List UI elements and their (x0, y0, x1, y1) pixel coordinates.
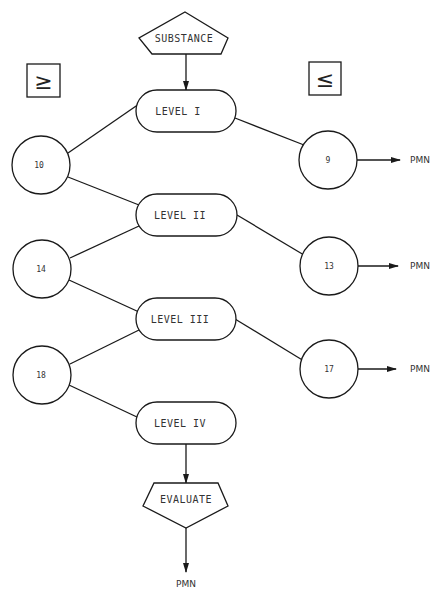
edge-level1-node9 (235, 118, 304, 145)
level-4-label: LEVEL IV (154, 418, 206, 429)
level-1: LEVEL I (136, 90, 236, 132)
level-1-label: LEVEL I (155, 106, 201, 117)
end-node-evaluate: EVALUATE (143, 483, 228, 528)
level-2: LEVEL II (136, 194, 237, 236)
node-18-label: 18 (36, 371, 46, 380)
level-3: LEVEL III (136, 298, 236, 340)
node-17-label: 17 (324, 365, 334, 374)
node-9-label: 9 (326, 156, 331, 165)
node-10: 10 (12, 136, 70, 194)
node-10-label: 10 (34, 161, 44, 170)
greater-equal-box: ≥ (27, 64, 60, 97)
edge-node14-level3 (69, 280, 139, 312)
less-equal-box: ≤ (309, 62, 341, 95)
less-equal-icon: ≤ (316, 67, 334, 92)
edge-level1-node10 (68, 104, 139, 153)
node-14: 14 (13, 240, 71, 298)
edge-level2-node14 (70, 226, 139, 258)
edge-level3-node17 (235, 319, 304, 361)
node-13: 13 (300, 237, 358, 295)
start-label: SUBSTANCE (155, 33, 214, 44)
pmn-output-13: PMN (410, 261, 430, 271)
node-18: 18 (13, 346, 71, 404)
edge-node10-level2 (68, 177, 139, 205)
pmn-output-evaluate: PMN (176, 579, 196, 589)
node-9: 9 (299, 131, 357, 189)
level-2-label: LEVEL II (154, 210, 206, 221)
edge-level3-node18 (70, 330, 139, 364)
edge-level2-node13 (237, 215, 304, 255)
edge-node18-level4 (69, 385, 139, 418)
node-14-label: 14 (36, 265, 46, 274)
start-node-substance: SUBSTANCE (139, 12, 228, 54)
pmn-output-9: PMN (410, 155, 430, 165)
evaluate-label: EVALUATE (160, 494, 212, 505)
greater-equal-icon: ≥ (34, 69, 52, 94)
level-4: LEVEL IV (136, 402, 236, 444)
level-3-label: LEVEL III (151, 314, 210, 325)
node-17: 17 (300, 340, 358, 398)
pmn-output-17: PMN (410, 364, 430, 374)
node-13-label: 13 (324, 262, 334, 271)
flowchart: SUBSTANCE ≥ ≤ LEVEL I LEVEL II LEVEL III… (0, 0, 445, 599)
